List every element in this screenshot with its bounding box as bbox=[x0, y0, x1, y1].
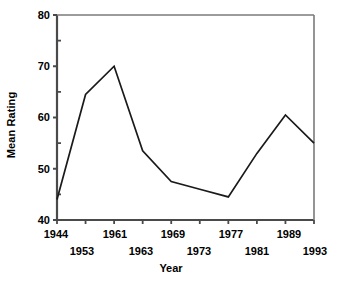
axis-lines bbox=[57, 15, 314, 220]
data-line-mean-rating bbox=[57, 66, 314, 199]
plot-area bbox=[0, 0, 342, 287]
line-chart-figure: Mean Rating 80 70 60 50 40 1944 1953 196… bbox=[0, 0, 342, 287]
